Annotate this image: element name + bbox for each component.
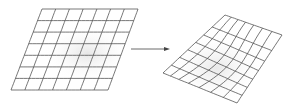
warp-diagram [0, 0, 293, 108]
warped-grid [163, 15, 282, 103]
arrow-icon [131, 47, 170, 51]
source-grid [11, 9, 138, 90]
